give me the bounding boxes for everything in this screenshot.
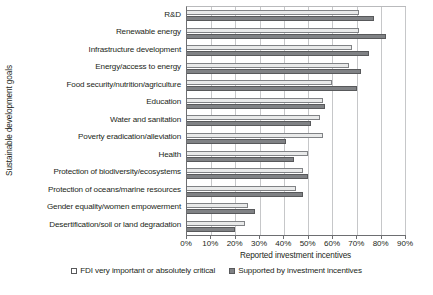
category-label: Energy/access to energy (95, 63, 181, 71)
bar-dark (187, 174, 308, 179)
bar-light (187, 98, 323, 103)
bar-group (187, 165, 405, 183)
bar-light (187, 45, 352, 50)
category-label-row: Gender equality/women empowerment (16, 199, 184, 217)
category-label-column: R&DRenewable energyInfrastructure develo… (16, 6, 184, 234)
x-tick-label: 0% (180, 239, 192, 248)
x-tick-label: 40% (275, 239, 291, 248)
bar-light (187, 186, 296, 191)
category-label-row: Education (16, 94, 184, 112)
category-label-row: Desertification/soil or land degradation (16, 216, 184, 234)
legend-swatch-dark (229, 268, 235, 274)
bar-dark (187, 34, 386, 39)
bar-dark (187, 16, 374, 21)
category-label: Food security/nutrition/agriculture (67, 81, 181, 89)
x-axis-title: Reported investment incentives (186, 251, 405, 260)
bar-group (187, 130, 405, 148)
bar-light (187, 168, 303, 173)
bar-dark (187, 139, 286, 144)
plot-area (186, 6, 406, 236)
x-tick-label: 80% (373, 239, 389, 248)
bar-light (187, 151, 308, 156)
bar-group (187, 200, 405, 218)
category-label-row: Infrastructure development (16, 41, 184, 59)
category-label: Gender equality/women empowerment (47, 203, 181, 211)
bar-dark (187, 69, 361, 74)
category-label: Health (159, 151, 182, 159)
chart-legend: FDI very important or absolutely critica… (0, 266, 433, 275)
bar-dark (187, 157, 294, 162)
x-tick-label: 50% (300, 239, 316, 248)
legend-item[interactable]: FDI very important or absolutely critica… (71, 266, 215, 275)
bar-dark (187, 86, 357, 91)
bar-light (187, 80, 332, 85)
category-label-row: Water and sanitation (16, 111, 184, 129)
bar-light (187, 28, 359, 33)
category-label-row: Health (16, 146, 184, 164)
category-label-row: Protection of biodiversity/ecosystems (16, 164, 184, 182)
bar-light (187, 63, 349, 68)
bar-group (187, 182, 405, 200)
x-tick-label: 70% (348, 239, 364, 248)
category-label-row: Protection of oceans/marine resources (16, 181, 184, 199)
gridline (405, 7, 406, 235)
category-label: Protection of oceans/marine resources (48, 186, 181, 194)
category-label: Poverty eradication/alleviation (78, 133, 181, 141)
bar-dark (187, 51, 369, 56)
legend-label: FDI very important or absolutely critica… (80, 266, 215, 275)
category-label: Protection of biodiversity/ecosystems (53, 168, 181, 176)
bar-group (187, 147, 405, 165)
bar-light (187, 10, 359, 15)
bar-group (187, 95, 405, 113)
category-label: R&D (164, 11, 181, 19)
bar-light (187, 115, 320, 120)
x-axis-tick-labels: 0%10%20%30%40%50%60%70%80%90% (186, 239, 405, 251)
x-tick-label: 30% (251, 239, 267, 248)
category-label-row: Energy/access to energy (16, 59, 184, 77)
chart-figure: Sustainable development goals R&DRenewab… (0, 0, 433, 295)
bar-dark (187, 192, 303, 197)
bar-dark (187, 104, 325, 109)
x-tick-label: 10% (202, 239, 218, 248)
bar-group (187, 217, 405, 235)
category-label: Water and sanitation (110, 116, 181, 124)
x-tick-label: 60% (324, 239, 340, 248)
bar-group (187, 7, 405, 25)
bar-light (187, 133, 323, 138)
category-label-row: Poverty eradication/alleviation (16, 129, 184, 147)
category-label-row: Food security/nutrition/agriculture (16, 76, 184, 94)
bar-group (187, 77, 405, 95)
legend-label: Supported by investment incentives (238, 266, 362, 275)
category-label: Education (146, 98, 181, 106)
category-label: Desertification/soil or land degradation (49, 221, 181, 229)
legend-swatch-light (71, 268, 77, 274)
bar-groups (187, 7, 405, 235)
category-label: Infrastructure development (89, 46, 181, 54)
bar-group (187, 60, 405, 78)
category-label-row: R&D (16, 6, 184, 24)
bar-dark (187, 209, 255, 214)
bar-light (187, 203, 248, 208)
bar-group (187, 25, 405, 43)
category-label-row: Renewable energy (16, 24, 184, 42)
bar-dark (187, 227, 235, 232)
bar-light (187, 221, 245, 226)
x-tick-label: 20% (227, 239, 243, 248)
x-tick-label: 90% (397, 239, 413, 248)
bar-group (187, 112, 405, 130)
category-label: Renewable energy (116, 28, 181, 36)
bar-dark (187, 121, 311, 126)
y-axis-title-text: Sustainable development goals (5, 65, 14, 176)
bar-group (187, 42, 405, 60)
legend-item[interactable]: Supported by investment incentives (229, 266, 362, 275)
